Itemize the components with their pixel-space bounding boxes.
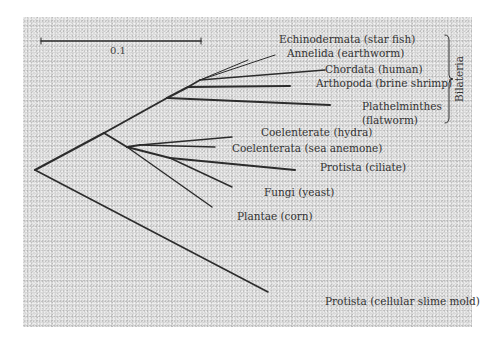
branch — [167, 87, 188, 98]
taxon-label: Annelida (earthworm) — [286, 47, 404, 59]
branch — [127, 147, 212, 207]
branch — [35, 170, 268, 292]
branch — [140, 137, 232, 145]
taxon-label: Fungi (yeast) — [264, 186, 334, 198]
branch — [188, 86, 290, 87]
branch — [200, 70, 325, 80]
branch — [140, 145, 215, 147]
scale-bar: 0.1 — [41, 38, 201, 56]
branch — [104, 133, 127, 147]
branch — [127, 147, 170, 158]
taxon-label: (flatworm) — [362, 114, 418, 126]
branch — [104, 98, 167, 133]
taxon-label: Plantae (corn) — [237, 210, 313, 222]
phylogenetic-tree: 0.1 Echinodermata (star fish)Annelida (e… — [0, 0, 492, 338]
scale-bar-label: 0.1 — [110, 45, 126, 56]
branch — [167, 98, 330, 105]
taxon-label: Arthopoda (brine shrimp) — [315, 77, 452, 89]
clade-label-bilateria: Bilateria — [453, 56, 465, 102]
taxon-label: Chordata (human) — [325, 63, 423, 75]
taxon-label: Coelenterate (hydra) — [261, 126, 372, 138]
taxon-label: Protista (ciliate) — [320, 161, 406, 173]
branch — [35, 133, 104, 170]
taxon-label: Plathelminthes — [362, 100, 442, 112]
taxon-label: Protista (cellular slime mold) — [325, 295, 480, 307]
branch — [200, 55, 275, 80]
branch — [170, 158, 295, 170]
taxon-label: Echinodermata (star fish) — [279, 33, 415, 45]
taxon-label: Coelenterata (sea anemone) — [232, 142, 382, 154]
tree-branches — [35, 55, 330, 292]
